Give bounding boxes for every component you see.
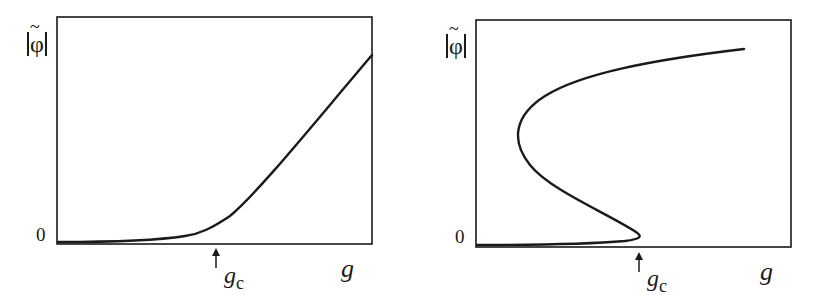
gc-arrow-icon (212, 248, 220, 268)
plot-area-left (0, 0, 400, 303)
x-axis-label: g (341, 254, 354, 284)
gc-annotation: gc (647, 265, 667, 297)
y-tick-zero: 0 (36, 224, 46, 246)
gc-arrow-icon (635, 252, 643, 272)
order-parameter-curve (58, 55, 372, 242)
y-tick-zero: 0 (455, 226, 465, 248)
gc-annotation: gc (224, 262, 244, 294)
y-axis-label: ~φ (446, 32, 466, 58)
plot-frame (57, 17, 372, 244)
chart-panel-discontinuous: ~φ 0 gc g (420, 0, 833, 303)
plot-frame (476, 20, 791, 247)
x-axis-label: g (760, 257, 773, 287)
order-parameter-curve (477, 49, 744, 245)
y-axis-label: ~φ (27, 30, 47, 56)
chart-panel-continuous: ~φ 0 gc g (0, 0, 400, 303)
